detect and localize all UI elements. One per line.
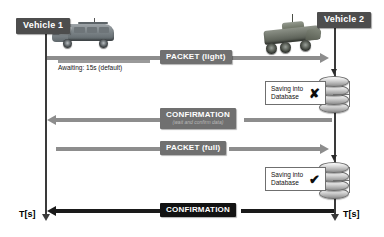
message-line-packet-full-left (56, 147, 160, 151)
message-line-confirmation-partial-right (244, 118, 332, 122)
message-arrowhead-confirmation-partial (47, 115, 56, 125)
time-axis-label-right: T[s] (343, 210, 360, 219)
message-label-confirmation-partial-main: CONFIRMATION (166, 110, 230, 119)
van-window-shape (74, 27, 85, 33)
save-callout-failed: Saving into Database ✘ (265, 81, 326, 105)
sequence-diagram-canvas: T[s] T[s] Vehicle 1 Vehicle 2 Awaiting: … (0, 0, 384, 237)
message-arrowhead-packet-full (320, 144, 329, 154)
message-line-confirmation-final-right (241, 209, 334, 213)
van-roofrack-shape (78, 22, 108, 24)
save-callout-line2: Database (271, 179, 299, 186)
message-line-confirmation-final-left (56, 209, 160, 213)
message-line-packet-light-left (47, 56, 160, 60)
message-arrowhead-packet-light (320, 53, 329, 63)
message-label-confirmation-partial[interactable]: CONFIRMATION (wait and confirm data) (160, 108, 236, 129)
van-wheel-shape (99, 39, 108, 48)
save-callout-line2: Database (271, 93, 299, 100)
save-callout-connector-failed (333, 94, 349, 95)
save-callout-bracket-failed (349, 81, 350, 107)
save-callout-succeeded: Saving into Database ✔ (265, 167, 326, 191)
message-label-packet-full[interactable]: PACKET (full) (160, 141, 226, 155)
message-line-packet-light-right (231, 56, 322, 60)
save-callout-text-succeeded: Saving into Database (271, 171, 303, 187)
apc-wheel-shape (266, 43, 277, 54)
db-write-arrow-failed (331, 69, 337, 75)
time-axis-label-left: T[s] (19, 210, 36, 219)
node-label-vehicle-2[interactable]: Vehicle 2 (317, 12, 371, 28)
lifeline-vehicle-1 (45, 34, 47, 217)
message-line-packet-full-right (229, 147, 322, 151)
armoured-vehicle-icon (262, 20, 324, 54)
van-wheel-shape (63, 39, 72, 48)
message-label-packet-light[interactable]: PACKET (light) (160, 50, 232, 64)
node-label-vehicle-1[interactable]: Vehicle 1 (16, 18, 70, 34)
van-window-shape (87, 27, 97, 33)
message-label-confirmation-final[interactable]: CONFIRMATION (160, 203, 236, 217)
db-write-arrow-succeeded (331, 155, 337, 161)
save-callout-connector-succeeded (333, 180, 349, 181)
check-mark-icon: ✔ (309, 173, 320, 186)
apc-wheel-shape (280, 42, 291, 53)
save-callout-line1: Saving into (271, 85, 303, 92)
awaiting-timer-label: Awaiting: 15s (default) (58, 65, 122, 72)
apc-wheel-shape (300, 40, 311, 51)
save-callout-bracket-succeeded (349, 167, 350, 193)
message-arrowhead-confirmation-final (47, 206, 56, 216)
cross-mark-icon: ✘ (309, 87, 320, 100)
van-window-shape (99, 27, 109, 33)
save-callout-text-failed: Saving into Database (271, 85, 303, 101)
message-sublabel-confirmation-partial: (wait and confirm data) (166, 120, 230, 125)
awaiting-timer-bar (58, 60, 150, 63)
message-line-confirmation-partial-left (56, 118, 160, 122)
save-callout-line1: Saving into (271, 171, 303, 178)
lifeline-vehicle-2-arrowhead (331, 214, 339, 221)
